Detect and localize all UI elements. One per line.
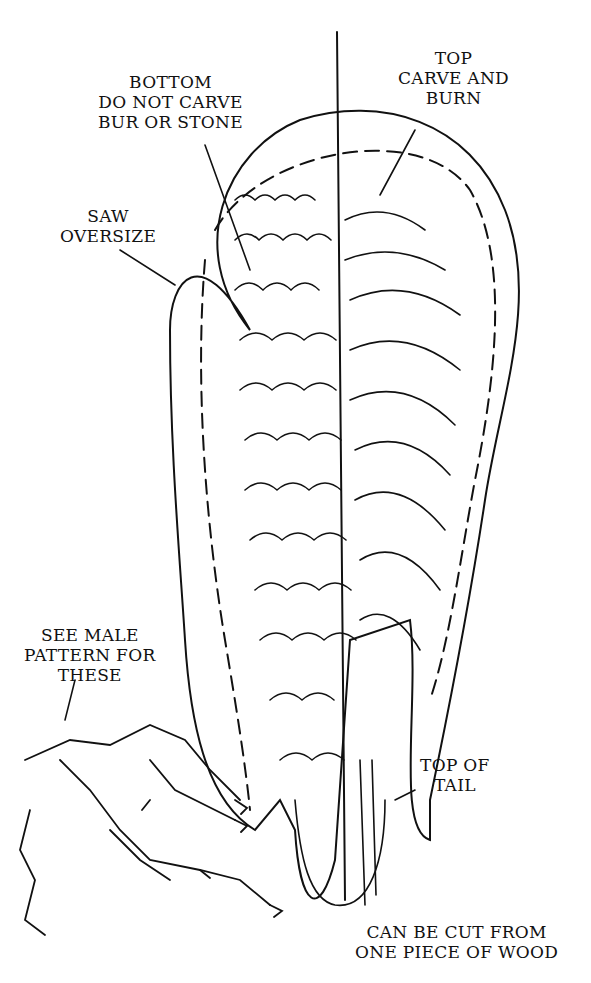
label-line: CAN BE CUT FROM xyxy=(355,922,558,942)
label-line: OVERSIZE xyxy=(60,226,156,246)
talons xyxy=(20,725,282,935)
label-line: BURN xyxy=(398,88,509,108)
label-line: TOP xyxy=(398,48,509,68)
label-line: CARVE AND xyxy=(398,68,509,88)
label-line: BUR OR STONE xyxy=(98,112,243,132)
top-feathers xyxy=(345,212,460,650)
label-top: TOP CARVE AND BURN xyxy=(398,48,509,108)
bottom-feathers xyxy=(235,195,356,760)
oversize-dashed-line xyxy=(201,151,495,810)
label-line: ONE PIECE OF WOOD xyxy=(355,942,558,962)
label-line: THESE xyxy=(24,665,156,685)
label-line: PATTERN FOR xyxy=(24,645,156,665)
wing-diagram xyxy=(0,0,591,983)
label-line: SAW xyxy=(60,206,156,226)
label-tail: TOP OF TAIL xyxy=(420,755,490,795)
label-line: DO NOT CARVE xyxy=(98,92,243,112)
label-line: SEE MALE xyxy=(24,625,156,645)
label-male-pattern: SEE MALE PATTERN FOR THESE xyxy=(24,625,156,685)
label-saw: SAW OVERSIZE xyxy=(60,206,156,246)
label-line: TOP OF xyxy=(420,755,490,775)
label-line: TAIL xyxy=(420,775,490,795)
label-cut: CAN BE CUT FROM ONE PIECE OF WOOD xyxy=(355,922,558,962)
label-line: BOTTOM xyxy=(98,72,243,92)
label-bottom: BOTTOM DO NOT CARVE BUR OR STONE xyxy=(98,72,243,132)
